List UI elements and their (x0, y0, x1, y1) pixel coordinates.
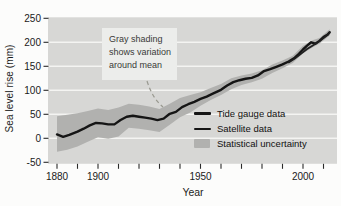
annotation-line: around mean (109, 59, 177, 72)
x-axis-title: Year (57, 186, 329, 198)
y-tick-label: 200 (24, 37, 41, 48)
x-tick-label: 1950 (189, 171, 212, 182)
tide-gauge-line-swatch (194, 112, 211, 115)
y-tick-label: 100 (24, 85, 41, 96)
sea-level-rise-figure: -500501001502002501880190019502000 Sea l… (0, 0, 341, 206)
x-tick-label: 1900 (87, 171, 110, 182)
legend-label: Tide gauge data (217, 108, 285, 119)
annotation-callout: Gray shading shows variation around mean (102, 28, 177, 80)
satellite-line-swatch (194, 128, 211, 130)
legend: Tide gauge data Satellite data Statistic… (193, 106, 307, 151)
annotation-line: Gray shading (109, 33, 177, 46)
y-axis-title: Sea level rise (mm) (4, 22, 17, 156)
legend-item-uncertainty: Statistical uncertainty (193, 136, 307, 151)
y-tick-label: -50 (27, 157, 42, 168)
y-tick-label: 250 (24, 13, 41, 24)
y-tick-label: 0 (35, 133, 41, 144)
y-tick-label: 150 (24, 61, 41, 72)
x-tick-label: 2000 (292, 171, 315, 182)
uncertainty-patch-swatch (194, 139, 210, 148)
legend-label: Satellite data (217, 123, 272, 134)
annotation-line: shows variation (109, 46, 177, 59)
legend-item-satellite: Satellite data (193, 121, 307, 136)
y-tick-label: 50 (30, 109, 42, 120)
x-tick-label: 1880 (46, 171, 69, 182)
legend-label: Statistical uncertainty (217, 138, 307, 149)
legend-item-tide-gauge: Tide gauge data (193, 106, 307, 121)
